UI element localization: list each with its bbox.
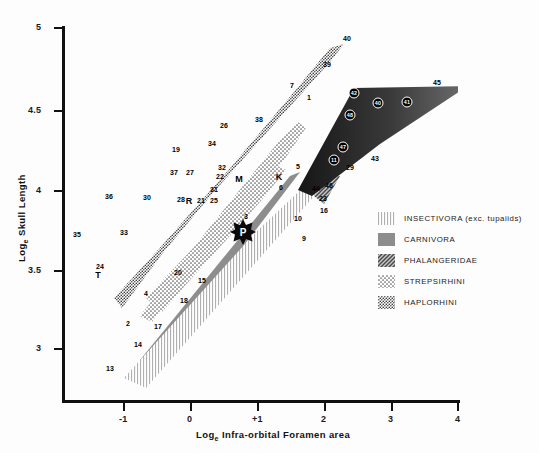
x-axis-title: Loge Infra-orbital Foramen area [196, 429, 350, 442]
star-icon: P [230, 219, 256, 245]
y-ticklabel-3: 3 [36, 343, 41, 353]
strepsirhini-swatch [378, 275, 395, 288]
point-label: 20 [174, 269, 182, 276]
legend-label: PHALANGERIDAE [404, 256, 477, 265]
point-label-circled: 41 [402, 97, 413, 108]
legend-item-carnivora: CARNIVORA [378, 229, 538, 250]
point-label: 39 [323, 61, 331, 68]
group-marker-M: M [235, 174, 243, 184]
legend-label: INSECTIVORA (exc. tupaiids) [404, 214, 522, 223]
point-label: 37 [170, 169, 178, 176]
phalangeridae-swatch [378, 254, 395, 267]
point-label: 6 [279, 184, 283, 191]
point-label: 18 [180, 297, 188, 304]
y-axis-title: Loge Skull Length [16, 174, 29, 262]
point-label: 40 [343, 35, 351, 42]
group-marker-P-star: P [230, 219, 256, 249]
x-ticklabel-4: 4 [455, 414, 460, 424]
point-label: 14 [134, 341, 142, 348]
x-axis-title-log: Log [196, 429, 215, 440]
legend-item-strepsirhini: STREPSIRHINI [378, 271, 538, 292]
point-label: 27 [186, 169, 194, 176]
legend-label: CARNIVORA [404, 235, 455, 244]
y-axis-title-sub: e [22, 239, 29, 243]
point-label: 28 [177, 196, 185, 203]
point-label-circled: 42 [349, 88, 360, 99]
x-ticklabel-2: 2 [321, 414, 326, 424]
point-label: 19 [172, 146, 180, 153]
y-axis-title-log: Log [16, 243, 27, 262]
point-label: 46 [325, 182, 333, 189]
point-label: 23 [319, 195, 327, 202]
x-ticklabel--1: -1 [119, 414, 128, 424]
point-label: 22 [216, 173, 224, 180]
legend-item-haplorhini: HAPLORHINI [378, 292, 538, 313]
point-label: 32 [218, 164, 226, 171]
x-axis-line [62, 400, 460, 403]
group-marker-K: K [276, 172, 283, 182]
y-ticklabel-4-5: 4.5 [28, 105, 41, 115]
x-axis-title-main: Infra-orbital Foramen area [222, 429, 350, 440]
x-tick-2 [324, 402, 326, 411]
point-label: 44 [312, 185, 320, 192]
haplorhini-swatch [378, 296, 395, 309]
point-label: 26 [220, 122, 228, 129]
y-axis-title-main: Skull Length [16, 174, 27, 236]
point-label-circled: 47 [338, 142, 349, 153]
point-label: 21 [197, 197, 205, 204]
x-tick-0 [190, 402, 192, 411]
carnivora-swatch [378, 233, 395, 246]
legend-label: STREPSIRHINI [404, 277, 465, 286]
y-ticklabel-3-5: 3.5 [28, 265, 41, 275]
point-label: 4 [144, 290, 148, 297]
point-label: 25 [210, 197, 218, 204]
point-label: 30 [143, 194, 151, 201]
point-label: 12 [70, 399, 78, 401]
point-label: 29 [346, 164, 354, 171]
point-label: 15 [198, 277, 206, 284]
x-ticklabel-1: +1 [252, 414, 263, 424]
point-label: 9 [302, 235, 306, 242]
point-label-circled: 40 [373, 98, 384, 109]
group-marker-T: T [95, 270, 101, 280]
group-marker-R: R [186, 196, 193, 206]
x-ticklabel-0: 0 [187, 414, 192, 424]
y-ticklabel-5: 5 [36, 22, 41, 32]
point-label: 24 [96, 263, 104, 270]
point-label: 2 [126, 320, 130, 327]
point-label: 16 [320, 207, 328, 214]
point-label: 5 [296, 163, 300, 170]
x-tick--1 [123, 402, 125, 411]
x-tick-4 [457, 402, 459, 411]
point-label: 13 [106, 365, 114, 372]
x-ticklabel-3: 3 [388, 414, 393, 424]
x-tick-3 [391, 402, 393, 411]
x-tick-1 [257, 402, 259, 411]
point-label: 35 [73, 231, 81, 238]
legend-item-insectivora: INSECTIVORA (exc. tupaiids) [378, 208, 538, 229]
legend: INSECTIVORA (exc. tupaiids) CARNIVORA PH… [378, 208, 538, 313]
x-axis-title-sub: e [215, 435, 219, 442]
point-label: 34 [208, 140, 216, 147]
legend-label: HAPLORHINI [404, 298, 457, 307]
point-label: 33 [120, 229, 128, 236]
insectivora-swatch [378, 212, 395, 225]
point-label-circled: 11 [329, 155, 340, 166]
group-marker-P-letter: P [240, 227, 247, 238]
legend-item-phalangeridae: PHALANGERIDAE [378, 250, 538, 271]
y-ticklabel-4: 4 [36, 185, 41, 195]
point-label: 43 [371, 155, 379, 162]
point-label: 31 [210, 186, 218, 193]
point-label: 17 [154, 323, 162, 330]
point-label: 36 [105, 193, 113, 200]
figure-scatter-plot: 5 4.5 4 3.5 3 -1 0 +1 2 3 4 Loge Infra-o… [0, 0, 539, 453]
point-label: 7 [290, 82, 294, 89]
point-label: 10 [294, 215, 302, 222]
point-label-circled: 48 [345, 110, 356, 121]
point-label: 38 [255, 116, 263, 123]
point-label: 45 [433, 79, 441, 86]
point-label: 1 [307, 94, 311, 101]
